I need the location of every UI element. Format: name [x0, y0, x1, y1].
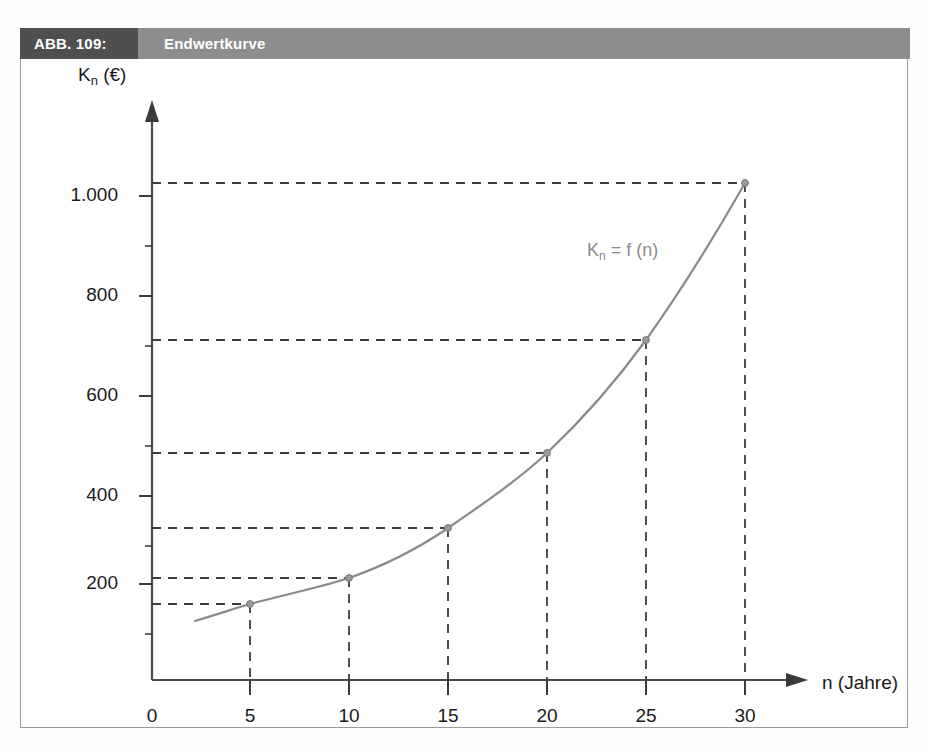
- y-tick-label-600: 600: [38, 384, 118, 406]
- y-tick-label-1000: 1.000: [38, 184, 118, 206]
- y-tick-label-400: 400: [38, 484, 118, 506]
- y-axis-title-subscript: n: [91, 73, 98, 88]
- figure-number-label: ABB. 109:: [20, 28, 138, 59]
- figure-title-label: Endwertkurve: [138, 28, 910, 59]
- x-tick-label-20: 20: [527, 705, 567, 727]
- curve-label-rest: = f (n): [611, 240, 659, 260]
- curve-label-base: K: [587, 240, 599, 260]
- y-tick-label-200: 200: [38, 572, 118, 594]
- y-axis-title-unit: (€): [103, 64, 126, 85]
- y-axis-title-base: K: [78, 64, 91, 85]
- y-tick-label-800: 800: [38, 284, 118, 306]
- x-tick-label-0: 0: [132, 705, 172, 727]
- curve-label-subscript: n: [599, 249, 606, 263]
- x-tick-label-25: 25: [626, 705, 666, 727]
- x-axis-title: n (Jahre): [822, 672, 898, 694]
- y-axis-title: Kn (€): [78, 64, 126, 86]
- figure-caption-bar: ABB. 109: Endwertkurve: [20, 28, 910, 59]
- x-tick-label-15: 15: [428, 705, 468, 727]
- x-tick-label-5: 5: [230, 705, 270, 727]
- x-tick-label-10: 10: [329, 705, 369, 727]
- x-tick-label-30: 30: [725, 705, 765, 727]
- figure-frame: [20, 28, 908, 728]
- curve-function-label: Kn = f (n): [587, 240, 658, 261]
